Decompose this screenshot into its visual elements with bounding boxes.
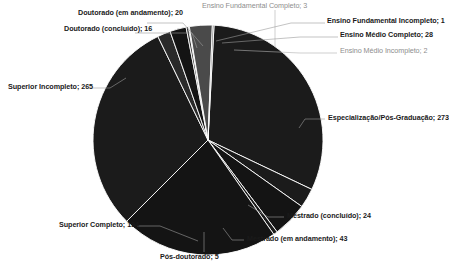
- slice-label-mestrado-concluido: Mestrado (concluído); 24: [287, 211, 371, 220]
- slice-label-especializacao: Especialização/Pós-Graduação; 273: [328, 113, 449, 122]
- slice-label-doutorado-andamento: Doutorado (em andamento); 20: [78, 8, 183, 17]
- slice-label-ensino-fundamental-completo: Ensino Fundamental Completo; 3: [202, 1, 307, 10]
- slice-label-superior-completo: Superior Completo; 194: [59, 220, 139, 229]
- slice-label-superior-incompleto: Superior Incompleto; 265: [8, 82, 93, 91]
- slice-label-ensino-medio-incompleto: Ensino Médio Incompleto; 2: [340, 46, 427, 55]
- slice-label-ensino-medio-completo: Ensino Médio Completo; 28: [340, 30, 433, 39]
- slice-label-pos-doutorado: Pós-doutorado; 5: [160, 252, 219, 261]
- slice-label-mestrado-andamento: Mestrado (em andamento); 43: [247, 234, 348, 243]
- slice-label-doutorado-concluido: Doutorado (concluído); 16: [64, 24, 152, 33]
- slice-label-ensino-fundamental-incompleto: Ensino Fundamental Incompleto; 1: [327, 16, 445, 25]
